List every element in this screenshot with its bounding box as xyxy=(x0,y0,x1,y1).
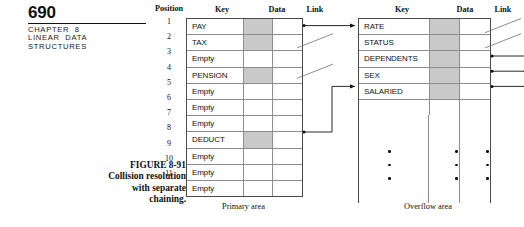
pointer-wire xyxy=(304,86,355,132)
key-cell[interactable]: PAY xyxy=(187,19,244,34)
table-row[interactable]: RATE xyxy=(359,19,490,35)
data-cell[interactable] xyxy=(430,68,460,83)
data-cell[interactable] xyxy=(430,84,460,99)
data-cell[interactable] xyxy=(244,100,273,115)
position-number: 9 xyxy=(152,136,186,151)
key-cell[interactable]: SEX xyxy=(359,68,430,83)
key-cell[interactable]: Empty xyxy=(187,181,244,196)
table-row[interactable] xyxy=(359,100,490,115)
figure-page: 690 CHAPTER 8 LINEAR DATA STRUCTURES FIG… xyxy=(0,0,524,227)
key-cell[interactable]: DEPENDENTS xyxy=(359,51,430,66)
link-cell[interactable] xyxy=(460,51,490,66)
overflow-header-key: Key xyxy=(358,4,446,15)
link-cell[interactable] xyxy=(273,84,302,99)
data-cell[interactable] xyxy=(244,84,273,99)
pointer-wire xyxy=(492,71,524,86)
position-number: 2 xyxy=(152,29,186,44)
key-cell[interactable]: PENSION xyxy=(187,68,244,83)
table-row[interactable]: Empty xyxy=(187,165,302,181)
overflow-ellipsis-link xyxy=(486,150,489,180)
link-cell[interactable] xyxy=(460,68,490,83)
data-cell[interactable] xyxy=(244,132,273,147)
link-cell[interactable] xyxy=(273,100,302,115)
table-row[interactable]: SEX xyxy=(359,68,490,84)
overflow-ellipsis-data xyxy=(455,150,458,180)
overflow-continuation xyxy=(359,115,490,203)
continuation-cell xyxy=(359,115,429,203)
key-cell[interactable]: Empty xyxy=(187,165,244,180)
table-row[interactable]: Empty xyxy=(187,116,302,132)
data-cell[interactable] xyxy=(430,35,460,50)
link-cell[interactable] xyxy=(273,51,302,66)
table-row[interactable]: Empty xyxy=(187,84,302,100)
position-number: 5 xyxy=(152,75,186,90)
key-cell[interactable]: RATE xyxy=(359,19,430,34)
table-row[interactable]: STATUS xyxy=(359,35,490,51)
key-cell[interactable]: Empty xyxy=(187,116,244,131)
data-cell[interactable] xyxy=(244,149,273,164)
key-cell[interactable]: Empty xyxy=(187,51,244,66)
key-cell[interactable]: Empty xyxy=(187,84,244,99)
data-cell[interactable] xyxy=(430,100,460,115)
data-cell[interactable] xyxy=(244,19,273,34)
table-row[interactable]: Empty xyxy=(187,51,302,67)
head-rule xyxy=(28,23,146,24)
primary-table: PAYTAXEmptyPENSIONEmptyEmptyEmptyDEDUCTE… xyxy=(186,18,303,197)
table-row[interactable]: DEPENDENTS xyxy=(359,51,490,67)
link-cell[interactable] xyxy=(273,68,302,83)
position-number: 8 xyxy=(152,120,186,135)
table-row[interactable]: Empty xyxy=(187,100,302,116)
link-cell[interactable] xyxy=(273,181,302,196)
position-header: Position xyxy=(152,4,186,14)
link-cell[interactable] xyxy=(460,100,490,115)
chapter-line-3: STRUCTURES xyxy=(28,43,148,51)
table-row[interactable]: DEDUCT xyxy=(187,132,302,148)
page-number: 690 xyxy=(28,4,148,22)
overflow-ellipsis-key xyxy=(388,150,391,180)
key-cell[interactable] xyxy=(359,100,430,115)
table-row[interactable]: SALARIED xyxy=(359,84,490,100)
data-cell[interactable] xyxy=(244,165,273,180)
data-cell[interactable] xyxy=(244,51,273,66)
table-row[interactable]: TAX xyxy=(187,35,302,51)
link-cell[interactable] xyxy=(273,35,302,50)
data-cell[interactable] xyxy=(244,181,273,196)
link-cell[interactable] xyxy=(460,84,490,99)
link-cell[interactable] xyxy=(273,116,302,131)
primary-header-key: Key xyxy=(186,4,258,15)
pointer-wire xyxy=(492,41,524,56)
link-cell[interactable] xyxy=(273,19,302,34)
position-number: 6 xyxy=(152,90,186,105)
link-cell[interactable] xyxy=(460,19,490,34)
link-cell[interactable] xyxy=(273,132,302,147)
overflow-header-data: Data xyxy=(446,4,484,15)
data-cell[interactable] xyxy=(430,51,460,66)
table-row[interactable]: Empty xyxy=(187,181,302,196)
table-row[interactable]: Empty xyxy=(187,149,302,165)
table-row[interactable]: PENSION xyxy=(187,68,302,84)
link-cell[interactable] xyxy=(273,165,302,180)
overflow-header-link: Link xyxy=(484,4,522,15)
position-number: 1 xyxy=(152,14,186,29)
data-cell[interactable] xyxy=(244,35,273,50)
caption-line-3: chaining. xyxy=(18,194,186,205)
table-row[interactable]: PAY xyxy=(187,19,302,35)
key-cell[interactable]: STATUS xyxy=(359,35,430,50)
key-cell[interactable]: Empty xyxy=(187,100,244,115)
chapter-title: CHAPTER 8 LINEAR DATA STRUCTURES xyxy=(28,26,148,51)
position-number: 11 xyxy=(152,166,186,181)
position-number: 4 xyxy=(152,60,186,75)
data-cell[interactable] xyxy=(430,19,460,34)
link-cell[interactable] xyxy=(273,149,302,164)
data-cell[interactable] xyxy=(244,116,273,131)
overflow-table: RATESTATUSDEPENDENTSSEXSALARIED xyxy=(358,18,491,203)
link-cell[interactable] xyxy=(460,35,490,50)
primary-header-link: Link xyxy=(296,4,334,15)
key-cell[interactable]: SALARIED xyxy=(359,84,430,99)
key-cell[interactable]: Empty xyxy=(187,149,244,164)
position-values: 1234567891011 xyxy=(152,14,186,181)
key-cell[interactable]: TAX xyxy=(187,35,244,50)
key-cell[interactable]: DEDUCT xyxy=(187,132,244,147)
data-cell[interactable] xyxy=(244,68,273,83)
overflow-area-label: Overflow area xyxy=(353,202,503,211)
